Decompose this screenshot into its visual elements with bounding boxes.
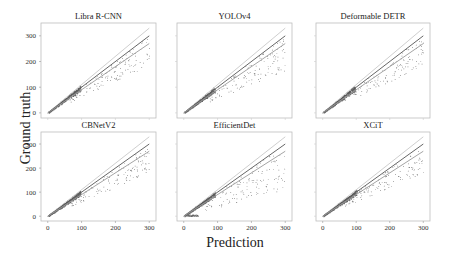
panel-title: YOLOv4 xyxy=(218,11,251,21)
figure: Libra R-CNN0100200300YOLOv4Deformable DE… xyxy=(0,0,449,253)
y-tick-label: 100 xyxy=(26,189,37,197)
scatter-points xyxy=(185,40,286,114)
reference-line xyxy=(184,151,285,216)
y-tick-label: 300 xyxy=(26,32,37,40)
x-axis-label: Prediction xyxy=(206,235,264,251)
x-tick-label: 0 xyxy=(46,224,50,232)
reference-line xyxy=(48,28,149,113)
x-tick-label: 200 xyxy=(246,224,257,232)
y-tick-label: 200 xyxy=(26,58,37,66)
reference-line xyxy=(323,151,424,216)
reference-line xyxy=(48,137,149,216)
reference-line xyxy=(184,36,285,113)
reference-line xyxy=(48,44,149,113)
y-tick-label: 100 xyxy=(26,84,37,92)
panel-title: Libra R-CNN xyxy=(75,11,122,21)
y-tick-label: 200 xyxy=(26,165,37,173)
panel-deformable-detr: Deformable DETR xyxy=(314,11,430,120)
x-tick-label: 0 xyxy=(182,224,186,232)
panel-libra-r-cnn: Libra R-CNN0100200300 xyxy=(26,11,157,120)
x-tick-label: 100 xyxy=(76,224,87,232)
panel-title: Deformable DETR xyxy=(341,11,406,21)
reference-line xyxy=(48,36,149,113)
reference-line xyxy=(323,144,424,216)
x-tick-label: 300 xyxy=(418,224,429,232)
panel-yolov4: YOLOv4 xyxy=(175,11,292,120)
x-tick-label: 0 xyxy=(321,224,325,232)
x-tick-label: 200 xyxy=(110,224,121,232)
reference-line xyxy=(323,36,424,113)
reference-line xyxy=(48,144,149,216)
x-tick-label: 100 xyxy=(351,224,362,232)
reference-line xyxy=(323,137,424,216)
panel-title: XCiT xyxy=(363,120,383,130)
reference-line xyxy=(184,144,285,216)
reference-line xyxy=(184,137,285,216)
reference-line xyxy=(48,151,149,216)
y-tick-label: 0 xyxy=(33,213,37,221)
reference-line xyxy=(323,44,424,113)
reference-line xyxy=(184,28,285,113)
panel-cbnetv2: CBNetV201002003000100200300 xyxy=(26,120,157,232)
x-tick-label: 200 xyxy=(385,224,396,232)
panel-efficientdet: EfficientDet0100200300 xyxy=(175,120,292,232)
scatter-points xyxy=(185,155,286,217)
x-tick-label: 100 xyxy=(212,224,223,232)
panel-title: EfficientDet xyxy=(214,120,256,130)
panel-title: CBNetV2 xyxy=(82,120,116,130)
x-tick-label: 300 xyxy=(280,224,291,232)
reference-line xyxy=(323,28,424,113)
y-axis-label: Ground truth xyxy=(18,92,34,165)
panel-xcit: XCiT0100200300 xyxy=(314,120,430,232)
x-tick-label: 300 xyxy=(144,224,155,232)
reference-line xyxy=(184,44,285,113)
